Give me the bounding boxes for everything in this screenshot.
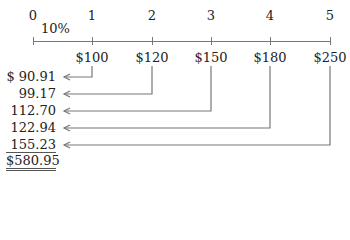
- arrow-2: [64, 66, 152, 94]
- pv-3: 112.70: [4, 103, 56, 118]
- pv-4: 122.94: [4, 120, 56, 135]
- pv-1: $ 90.91: [4, 69, 56, 84]
- arrow-5: [64, 66, 330, 145]
- arrow-3: [64, 66, 211, 111]
- arrow-4: [64, 66, 270, 128]
- pv-2: 99.17: [4, 86, 56, 101]
- pv-5: 155.23: [6, 137, 56, 153]
- pv-total: $580.95: [6, 153, 56, 171]
